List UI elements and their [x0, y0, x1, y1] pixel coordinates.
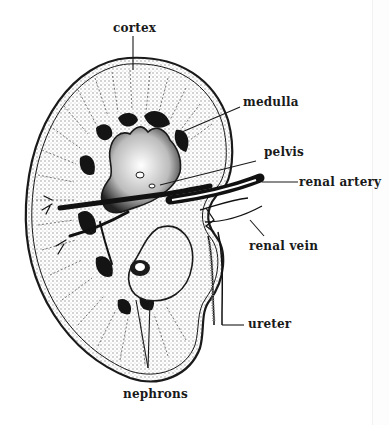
label-nephrons: nephrons [123, 388, 188, 400]
label-renal-vein: renal vein [249, 240, 318, 252]
label-cortex: cortex [113, 22, 156, 34]
kidney-capsule [26, 58, 232, 382]
leader-renal-vein [250, 220, 264, 236]
kidney-illustration [0, 0, 389, 425]
label-renal-artery: renal artery [299, 176, 381, 188]
label-pelvis: pelvis [264, 146, 304, 158]
label-medulla: medulla [243, 96, 299, 108]
label-ureter: ureter [248, 318, 291, 330]
kidney-diagram: cortex medulla pelvis renal artery renal… [0, 0, 389, 425]
